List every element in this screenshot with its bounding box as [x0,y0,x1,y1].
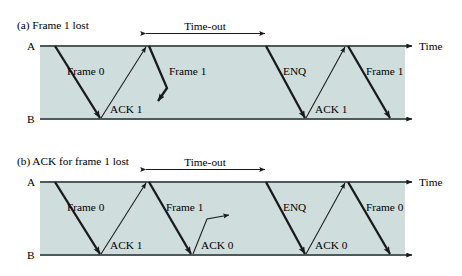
panel-b-station-a-label: A [27,176,36,188]
panel-a-caption: (a) Frame 1 lost [17,19,90,32]
panel-b-label-frame-0-retransmit: Frame 0 [366,201,404,213]
panel-b-label-ack-1: ACK 1 [110,239,142,251]
panel-a-time-axis-label: Time [419,40,442,52]
figure-container: (a) Frame 1 lost Time-out A Time B Frame… [0,0,462,276]
panel-a: (a) Frame 1 lost Time-out A Time B Frame… [17,19,442,126]
panel-b-caption: (b) ACK for frame 1 lost [17,155,130,168]
panel-b-station-b-label: B [27,249,35,261]
panel-b-label-frame-1: Frame 1 [166,201,203,213]
panel-a-label-frame-0: Frame 0 [67,65,105,77]
panel-b-label-ack-0: ACK 0 [315,239,348,251]
panel-a-label-ack-1-second: ACK 1 [315,103,347,115]
panel-b-time-axis-label: Time [419,176,442,188]
panel-b-label-ack-0-lost: ACK 0 [201,239,234,251]
protocol-timing-diagram: (a) Frame 1 lost Time-out A Time B Frame… [0,0,462,276]
panel-a-station-a-label: A [27,40,36,52]
panel-b: (b) ACK for frame 1 lost Time-out A Time… [17,155,442,262]
panel-b-label-frame-0: Frame 0 [67,201,105,213]
panel-a-label-enq: ENQ [283,65,306,77]
panel-b-label-enq: ENQ [283,201,306,213]
panel-a-timeout-bar: Time-out [146,20,265,34]
panel-a-station-b-label: B [27,113,35,125]
panel-b-timeout-bar: Time-out [146,156,265,170]
panel-a-label-frame-1-lost: Frame 1 [169,65,206,77]
panel-b-timeout-label: Time-out [184,156,227,168]
panel-a-timeout-label: Time-out [184,20,227,32]
panel-a-label-frame-1-retransmit: Frame 1 [366,65,403,77]
panel-a-label-ack-1-first: ACK 1 [110,103,142,115]
